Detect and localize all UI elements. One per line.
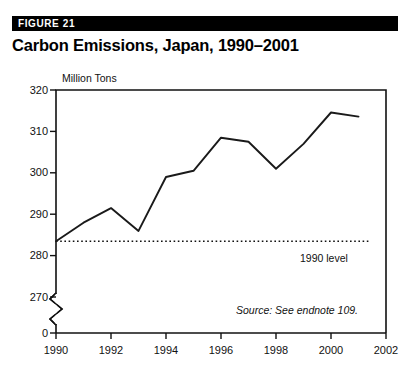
- figure-container: FIGURE 21 Carbon Emissions, Japan, 1990–…: [0, 0, 418, 374]
- x-tick-label-1994: 1994: [144, 344, 188, 356]
- x-tick-label-1996: 1996: [199, 344, 243, 356]
- x-tick-label-1990: 1990: [34, 344, 78, 356]
- y-tick-marks: [50, 90, 56, 333]
- y-tick-label-290: 290: [14, 208, 48, 220]
- y-tick-label-270: 270: [14, 291, 48, 303]
- y-tick-label-300: 300: [14, 166, 48, 178]
- y-axis-unit-label: Million Tons: [62, 72, 117, 84]
- series-line-carbon-emissions: [56, 113, 359, 242]
- annotation-source-note: Source: See endnote 109.: [236, 304, 358, 316]
- x-tick-marks: [56, 333, 386, 339]
- chart-plot-area: Million Tons 320 310 300 290 280 270 0 1…: [0, 0, 418, 374]
- x-tick-label-2000: 2000: [309, 344, 353, 356]
- chart-svg: [0, 0, 418, 374]
- y-tick-label-320: 320: [14, 84, 48, 96]
- y-tick-label-280: 280: [14, 249, 48, 261]
- annotation-1990-level: 1990 level: [300, 252, 348, 264]
- x-tick-label-1998: 1998: [254, 344, 298, 356]
- x-tick-label-2002: 2002: [364, 344, 408, 356]
- y-tick-label-0: 0: [14, 327, 48, 339]
- x-tick-label-1992: 1992: [89, 344, 133, 356]
- y-tick-label-310: 310: [14, 125, 48, 137]
